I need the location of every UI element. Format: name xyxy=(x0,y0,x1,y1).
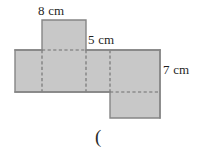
dimension-label-top: 8 cm xyxy=(38,3,64,18)
dimension-label-middle: 5 cm xyxy=(88,32,114,47)
face-band-right xyxy=(86,50,110,92)
face-band-left xyxy=(15,50,42,92)
dimension-label-right: 7 cm xyxy=(163,62,189,77)
face-band-front xyxy=(42,50,86,92)
caption-text: ( xyxy=(95,126,101,148)
face-top-flap xyxy=(42,20,86,50)
net-figure: 8 cm 5 cm 7 cm ( xyxy=(0,0,205,161)
net-diagram xyxy=(0,0,205,161)
face-band-back xyxy=(110,50,160,92)
face-bottom-flap xyxy=(110,92,160,118)
